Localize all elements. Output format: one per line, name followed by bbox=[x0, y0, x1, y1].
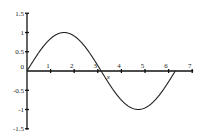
y-tick-label: -1 bbox=[18, 106, 24, 114]
y-tick-label: 1 bbox=[21, 29, 25, 37]
x-tick-label: 7 bbox=[188, 62, 192, 70]
x-tick-label: 6 bbox=[164, 62, 168, 70]
y-axis: 1.510.5-0.5-1-1.5 bbox=[13, 10, 29, 134]
x-tick-label: 5 bbox=[141, 62, 145, 70]
x-tick-label: 1 bbox=[46, 62, 50, 70]
y-tick-label: -1.5 bbox=[13, 125, 25, 133]
y-tick-label: 0.5 bbox=[15, 48, 24, 56]
x-tick-label: 4 bbox=[117, 62, 121, 70]
x-tick-label: 2 bbox=[70, 62, 74, 70]
origin-label: 0 bbox=[21, 63, 25, 71]
sine-chart: 1.510.5-0.5-1-1.5 01234567x bbox=[0, 0, 203, 137]
y-tick-label: -0.5 bbox=[13, 87, 25, 95]
y-tick-label: 1.5 bbox=[15, 10, 24, 18]
x-axis: 01234567x bbox=[21, 62, 194, 81]
